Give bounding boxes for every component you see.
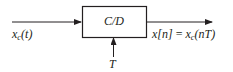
sampling-period-label: T xyxy=(109,58,116,70)
input-signal-label: xc(t) xyxy=(12,28,32,42)
block-label: C/D xyxy=(82,15,146,27)
cd-converter-diagram: C/D xc(t) x[n] = xc(nT) T xyxy=(0,0,233,72)
output-signal-label: x[n] = xc(nT) xyxy=(152,28,215,42)
